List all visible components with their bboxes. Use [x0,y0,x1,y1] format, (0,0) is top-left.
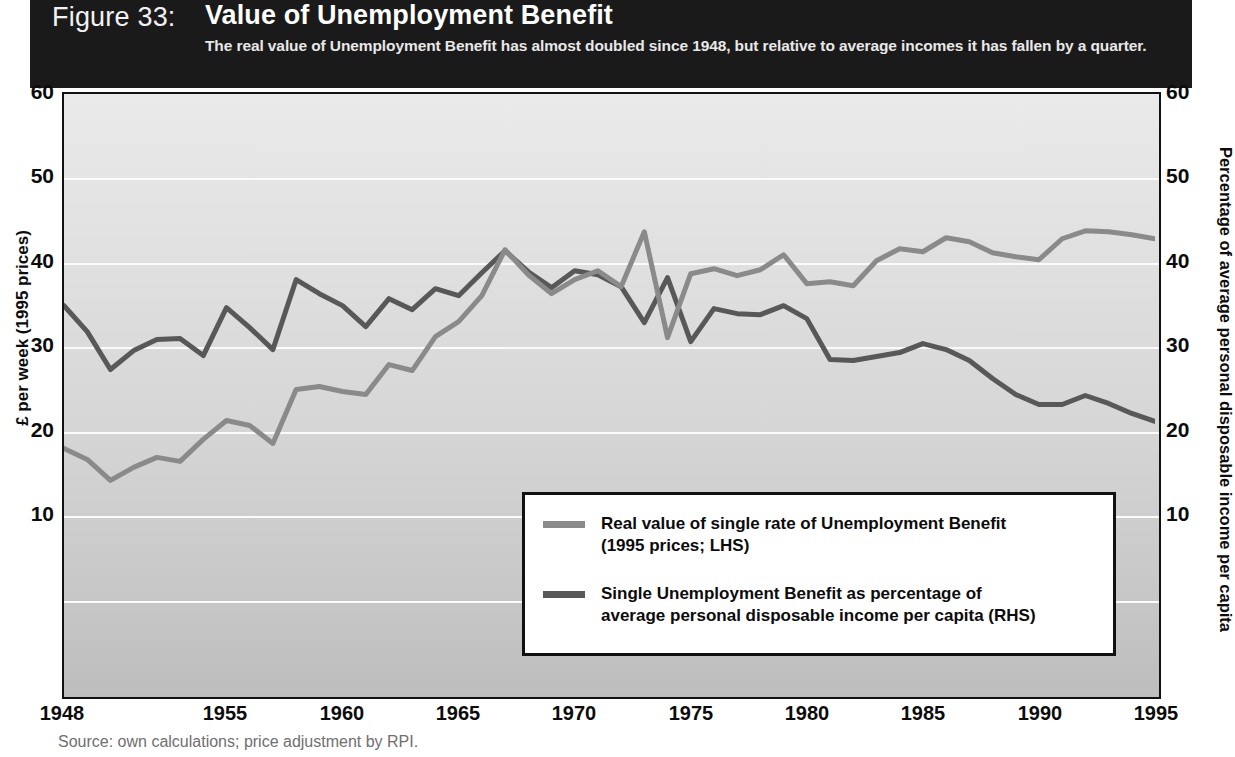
legend-swatch-rhs [543,591,585,598]
series-line-lhs [64,231,1155,481]
x-tick-1960: 1960 [297,702,387,725]
figure-number: Figure 33: [52,2,176,33]
y-tick-right-50: 50 [1166,164,1216,188]
y-axis-title-left: £ per week (1995 prices) [13,198,33,458]
source-note: Source: own calculations; price adjustme… [58,733,418,751]
legend-swatch-lhs [543,521,585,528]
page-title: Value of Unemployment Benefit [205,0,613,31]
y-tick-left-60: 60 [8,80,54,104]
y-tick-right-40: 40 [1166,249,1216,273]
x-tick-1975: 1975 [646,702,736,725]
y-tick-left-50: 50 [8,164,54,188]
x-tick-1955: 1955 [180,702,270,725]
legend-label-rhs-line1: Single Unemployment Benefit as percentag… [601,583,1036,605]
legend-label-lhs-line1: Real value of single rate of Unemploymen… [601,513,1006,535]
legend-entry-rhs: Single Unemployment Benefit as percentag… [543,583,1036,627]
y-tick-right-10: 10 [1166,502,1216,526]
y-axis-title-right: Percentage of average personal disposabl… [1216,70,1235,710]
legend-entry-lhs: Real value of single rate of Unemploymen… [543,513,1006,557]
x-tick-1990: 1990 [995,702,1085,725]
x-tick-1985: 1985 [878,702,968,725]
legend-label-lhs-line2: (1995 prices; LHS) [601,535,1006,557]
title-band: Figure 33: Value of Unemployment Benefit… [30,0,1192,88]
x-tick-1980: 1980 [762,702,852,725]
x-tick-1970: 1970 [529,702,619,725]
x-tick-1965: 1965 [413,702,503,725]
chart-legend: Real value of single rate of Unemploymen… [522,492,1116,656]
figure-subtitle: The real value of Unemployment Benefit h… [205,36,1165,56]
y-tick-right-60: 60 [1166,80,1216,104]
x-tick-1948: 1948 [17,702,107,725]
y-tick-right-30: 30 [1166,333,1216,357]
y-tick-left-10: 10 [8,502,54,526]
legend-label-rhs-line2: average personal disposable income per c… [601,605,1036,627]
y-tick-right-20: 20 [1166,418,1216,442]
x-tick-1995: 1995 [1111,702,1201,725]
